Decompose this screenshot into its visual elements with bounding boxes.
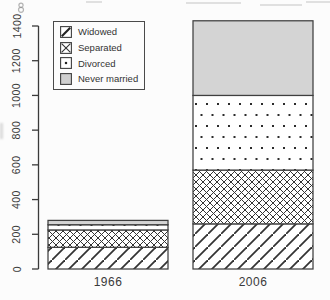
- stacked-bar-chart: 0200400600800100012001400 19662006: [0, 0, 330, 300]
- legend-label-divorced: Divorced: [78, 59, 116, 69]
- legend-label-separated: Separated: [78, 43, 122, 53]
- y-tick-label: 200: [11, 225, 23, 244]
- y-tick-label: 1400: [11, 14, 23, 39]
- chart-legend: Widowed Separated Divorced Never married: [53, 21, 145, 90]
- y-tick-label: 800: [11, 121, 23, 140]
- x-category-label: 2006: [239, 275, 268, 289]
- dot-icon: [60, 57, 72, 69]
- legend-item-divorced: Divorced: [60, 57, 144, 69]
- bar-2006-separated: [193, 170, 313, 224]
- gray-fill-icon: [60, 73, 72, 85]
- x-axis-labels: 19662006: [94, 275, 268, 289]
- diagonal-hatch-icon: [60, 26, 72, 38]
- y-tick-label: 400: [11, 190, 23, 209]
- bar-2006-divorced: [193, 95, 313, 170]
- legend-label-never-married: Never married: [78, 74, 138, 84]
- bar-1966-separated: [48, 230, 168, 247]
- y-tick-label: 600: [11, 155, 23, 174]
- bar-1966-never-married: [48, 220, 168, 224]
- bar-2006-widowed: [193, 224, 313, 269]
- legend-label-widowed: Widowed: [78, 27, 117, 37]
- x-category-label: 1966: [94, 275, 123, 289]
- legend-item-widowed: Widowed: [60, 26, 144, 38]
- y-tick-label: 1000: [11, 83, 23, 108]
- cross-hatch-icon: [60, 42, 72, 54]
- y-tick-label: 1200: [11, 48, 23, 73]
- legend-item-never-married: Never married: [60, 73, 144, 85]
- bar-2006-never-married: [193, 21, 313, 96]
- legend-item-separated: Separated: [60, 42, 144, 54]
- y-axis: 0200400600800100012001400: [11, 14, 39, 273]
- y-tick-label: 0: [11, 266, 23, 272]
- bar-1966-divorced: [48, 225, 168, 230]
- bar-1966-widowed: [48, 247, 168, 269]
- chart-figure: 0200400600800100012001400 19662006 Widow…: [0, 0, 330, 300]
